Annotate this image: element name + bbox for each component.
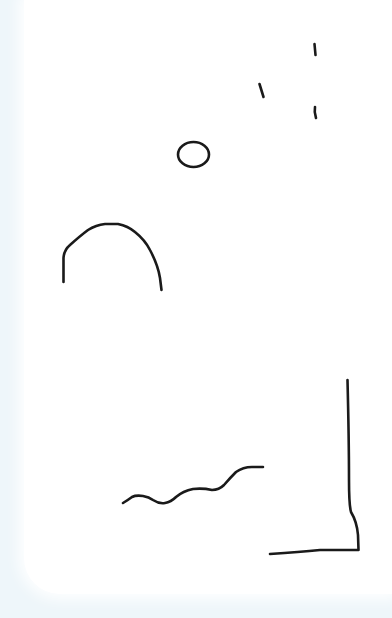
tick-mark-middle bbox=[260, 84, 264, 97]
wave-line-stroke bbox=[123, 467, 263, 503]
corner-bracket-stroke bbox=[270, 380, 359, 554]
tick-mark-lower-right bbox=[315, 107, 316, 118]
arch-stroke bbox=[64, 224, 162, 290]
small-circle bbox=[178, 142, 209, 167]
tick-mark-top-right bbox=[315, 44, 316, 55]
sketch-layer[interactable] bbox=[0, 0, 392, 618]
